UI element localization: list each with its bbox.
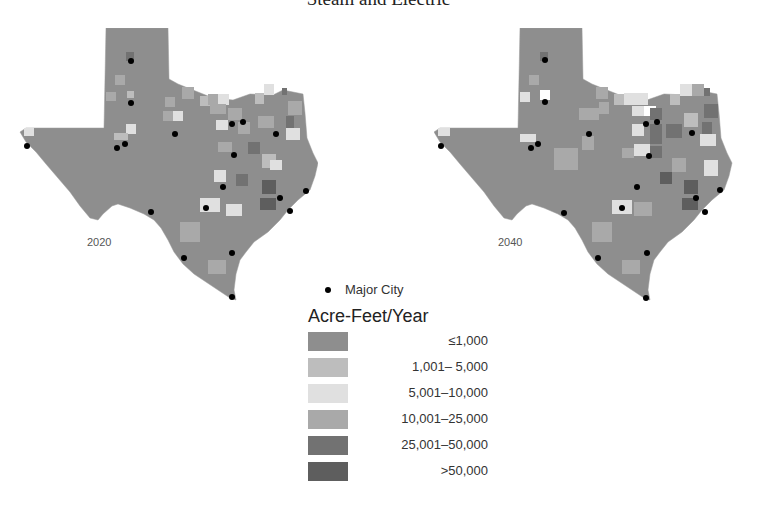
texas-map-2040 [434, 28, 734, 303]
legend-swatch [308, 384, 348, 403]
legend-swatch [308, 410, 348, 429]
legend-major-city: Major City [325, 282, 404, 297]
legend-class-5: 25,001–50,000 [308, 436, 488, 456]
legend-swatch [308, 436, 348, 455]
legend-swatch [308, 332, 348, 351]
legend-swatch [308, 358, 348, 377]
texas-outline [434, 28, 732, 300]
city-dot-icon [325, 287, 331, 293]
legend-class-label: >50,000 [441, 463, 488, 478]
legend-class-label: 1,001– 5,000 [412, 359, 488, 374]
texas-map-2020 [18, 28, 318, 303]
year-label-2040: 2040 [498, 236, 522, 248]
legend-class-4: 10,001–25,000 [308, 410, 488, 430]
legend-class-label: ≤1,000 [448, 333, 488, 348]
legend-city-label: Major City [345, 282, 404, 297]
legend-title: Acre-Feet/Year [308, 306, 428, 327]
legend-class-1: ≤1,000 [308, 332, 488, 352]
year-label-2020: 2020 [87, 236, 111, 248]
chart-title: Steam and Electric [0, 0, 757, 10]
legend-class-2: 1,001– 5,000 [308, 358, 488, 378]
legend-class-3: 5,001–10,000 [308, 384, 488, 404]
legend-class-6: >50,000 [308, 462, 488, 482]
legend-swatch [308, 462, 348, 481]
legend-class-label: 5,001–10,000 [408, 385, 488, 400]
legend-class-label: 25,001–50,000 [401, 437, 488, 452]
legend-class-label: 10,001–25,000 [401, 411, 488, 426]
